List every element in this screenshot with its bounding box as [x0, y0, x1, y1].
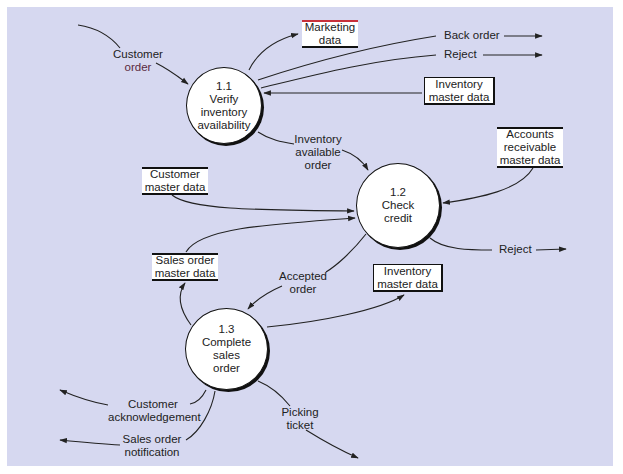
data-store-customer-master[interactable]: Customer master data: [142, 167, 208, 195]
process-name-line: sales: [213, 349, 240, 362]
process-name-line: credit: [384, 212, 412, 225]
data-store-marketing[interactable]: Marketing data: [302, 20, 358, 48]
label-customer-acknowledgement: Customer acknowledgement: [108, 398, 198, 424]
data-store-line: Marketing: [302, 21, 358, 34]
flow-reject-credit: [430, 238, 492, 250]
data-store-line: Accounts: [497, 128, 563, 141]
data-store-line: Inventory: [425, 78, 493, 91]
label-reject-top: Reject: [444, 48, 477, 61]
flow-reject-credit-arrow: [536, 249, 566, 250]
data-store-line: data: [302, 34, 358, 47]
flow-customer-master: [172, 195, 354, 211]
flow-picking-ticket-tail: [258, 381, 290, 406]
label-accepted-order: Accepted order: [273, 270, 333, 296]
data-store-line: Customer: [142, 168, 208, 181]
process-name-line: Complete: [202, 336, 251, 349]
data-store-line: master data: [152, 267, 218, 280]
label-inventory-available-order: Inventory available order: [288, 133, 348, 172]
process-number: 1.3: [219, 323, 235, 336]
process-check-credit[interactable]: 1.2 Check credit: [356, 163, 440, 248]
process-name-line: inventory: [201, 106, 248, 119]
process-number: 1.2: [390, 186, 406, 199]
data-store-line: master data: [374, 278, 441, 291]
data-store-line: master data: [142, 181, 208, 194]
process-name-line: Check: [382, 199, 415, 212]
data-store-line: receivable: [497, 141, 563, 154]
flow-sales-order-master: [186, 218, 355, 252]
data-store-inventory-bottom[interactable]: Inventory master data: [373, 264, 443, 292]
data-store-sales-order-master[interactable]: Sales order master data: [152, 253, 218, 281]
data-store-accounts-receivable[interactable]: Accounts receivable master data: [497, 127, 563, 168]
data-store-line: Inventory: [374, 265, 441, 278]
label-back-order: Back order: [444, 29, 500, 42]
label-reject-credit: Reject: [499, 243, 532, 256]
flow-customer-ack: [60, 390, 108, 405]
data-store-inventory-top[interactable]: Inventory master data: [424, 77, 495, 105]
process-complete-sales-order[interactable]: 1.3 Complete sales order: [185, 308, 268, 390]
flow-sales-notification: [60, 440, 120, 445]
flow-customer-order-tail: [78, 25, 120, 48]
flow-reject-top: [261, 55, 436, 88]
flow-accounts-receivable: [443, 168, 533, 203]
process-name-line: Verify: [210, 93, 239, 106]
data-store-line: master data: [425, 91, 493, 104]
flow-to-marketing: [249, 34, 298, 70]
flow-to-inventory-bottom: [267, 295, 404, 327]
process-number: 1.1: [216, 80, 232, 93]
flow-accepted-order-tail: [326, 234, 366, 272]
label-sales-order-notification: Sales order notification: [120, 433, 184, 459]
flow-picking-ticket: [306, 430, 358, 458]
process-name-line: availability: [197, 119, 250, 132]
process-verify-inventory[interactable]: 1.1 Verify inventory availability: [186, 67, 262, 144]
label-customer-order: Customer order: [103, 48, 173, 74]
label-picking-ticket: Picking ticket: [280, 406, 320, 432]
flow-to-sales-order-master: [180, 283, 191, 325]
flow-lines: [0, 0, 623, 474]
data-store-line: Sales order: [152, 254, 218, 267]
process-name-line: order: [213, 362, 240, 375]
data-store-line: master data: [497, 154, 563, 167]
